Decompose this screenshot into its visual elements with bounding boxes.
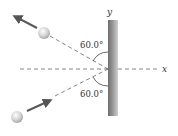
lower-angle-arc xyxy=(93,77,108,86)
incoming-ball xyxy=(11,111,23,123)
upper-angle-label: 60.0° xyxy=(80,40,103,50)
outgoing-ball xyxy=(38,27,50,39)
incoming-velocity-arrow xyxy=(27,101,49,111)
upper-angle-arc xyxy=(93,52,108,61)
y-axis-label: y xyxy=(106,7,113,17)
outgoing-velocity-arrow xyxy=(16,17,37,28)
x-axis-label: x xyxy=(162,64,167,74)
collision-diagram: y x 60.0° 60.0° xyxy=(0,0,178,136)
lower-angle-label: 60.0° xyxy=(80,89,103,99)
wall xyxy=(108,20,118,116)
